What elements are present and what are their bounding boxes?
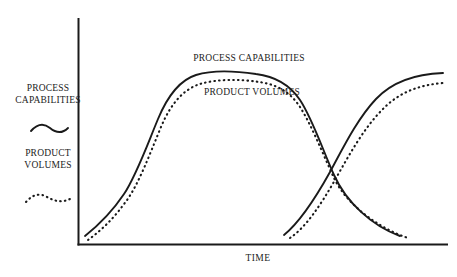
- x-axis-label: TIME: [218, 253, 298, 263]
- legend-label-process-capabilities: PROCESS CAPABILITIES: [4, 83, 92, 106]
- scurve-chart: [0, 0, 457, 277]
- curve-label-product-volumes: PRODUCT VOLUMES: [192, 87, 312, 97]
- chart-background: [0, 0, 457, 277]
- legend-label-product-volumes: PRODUCT VOLUMES: [4, 148, 92, 171]
- curve-label-process-capabilities: PROCESS CAPABILITIES: [189, 53, 309, 63]
